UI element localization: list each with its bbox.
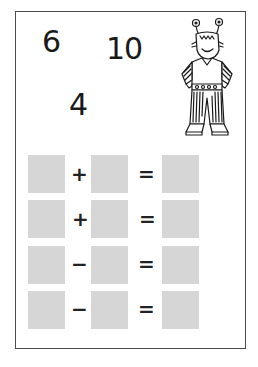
operator-plus: + [72, 209, 89, 229]
given-number-6: 6 [42, 27, 61, 57]
given-number-10: 10 [106, 34, 142, 64]
operator-minus: − [71, 299, 88, 319]
answer-box-r2-result[interactable] [162, 200, 199, 238]
answer-box-r2-b[interactable] [91, 200, 128, 238]
alien-character-icon [172, 16, 242, 138]
answer-box-r1-b[interactable] [91, 155, 128, 193]
operator-plus: + [71, 164, 88, 184]
equals-sign: = [138, 164, 155, 184]
given-number-4: 4 [69, 90, 88, 120]
answer-box-r4-result[interactable] [162, 291, 199, 329]
equals-sign: = [139, 209, 156, 229]
answer-box-r1-result[interactable] [162, 155, 199, 193]
equals-sign: = [138, 299, 155, 319]
answer-box-r4-b[interactable] [91, 291, 128, 329]
operator-minus: − [71, 254, 88, 274]
answer-box-r1-a[interactable] [28, 155, 65, 193]
answer-box-r3-b[interactable] [91, 246, 128, 284]
answer-box-r3-a[interactable] [28, 246, 65, 284]
answer-box-r3-result[interactable] [162, 246, 199, 284]
answer-box-r4-a[interactable] [28, 291, 65, 329]
equals-sign: = [138, 254, 155, 274]
answer-box-r2-a[interactable] [28, 200, 65, 238]
